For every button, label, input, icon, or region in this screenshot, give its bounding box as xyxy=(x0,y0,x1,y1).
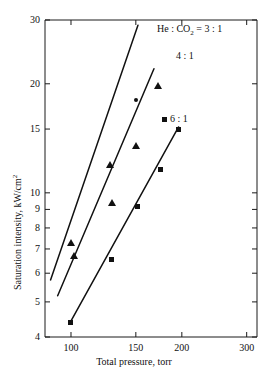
series-label-0: He : CO2 = 3 : 1 xyxy=(157,24,222,37)
y-tick-label: 20 xyxy=(0,79,40,89)
data-point-marker xyxy=(108,199,116,206)
x-tick-label: 100 xyxy=(51,343,91,353)
data-point-marker xyxy=(109,257,114,262)
y-tick-label: 30 xyxy=(0,15,40,25)
data-point-marker xyxy=(68,320,73,325)
series-label-2: 6 : 1 xyxy=(170,114,188,124)
series-line-0 xyxy=(51,25,138,280)
x-tick-label: 150 xyxy=(116,343,156,353)
axis-ticks xyxy=(45,20,257,337)
data-point-marker xyxy=(132,142,140,149)
data-point-marker xyxy=(106,161,114,168)
data-point-marker xyxy=(154,82,162,89)
data-point-marker xyxy=(70,252,78,259)
figure-container: 45678910152030100150200300He : CO2 = 3 :… xyxy=(0,0,268,375)
x-tick-label: 300 xyxy=(227,343,267,353)
series-label-1: 4 : 1 xyxy=(176,51,194,61)
y-tick-label: 5 xyxy=(0,297,40,307)
y-tick-label: 15 xyxy=(0,124,40,134)
series-lines xyxy=(51,25,179,323)
plot-canvas xyxy=(0,0,268,375)
data-point-marker xyxy=(176,127,181,132)
series-line-1 xyxy=(58,69,154,296)
y-tick-label: 4 xyxy=(0,332,40,342)
legend-square-marker xyxy=(162,117,167,122)
axis-frame xyxy=(45,20,257,337)
data-point-marker xyxy=(67,239,75,246)
x-tick-label: 200 xyxy=(162,343,202,353)
series-line-2 xyxy=(69,127,178,324)
data-point-marker xyxy=(135,204,140,209)
data-point-marker xyxy=(158,167,163,172)
x-axis-title: Total pressure, torr xyxy=(0,357,268,367)
y-axis-title: Saturation intensity, kW/cm2 xyxy=(12,175,23,290)
